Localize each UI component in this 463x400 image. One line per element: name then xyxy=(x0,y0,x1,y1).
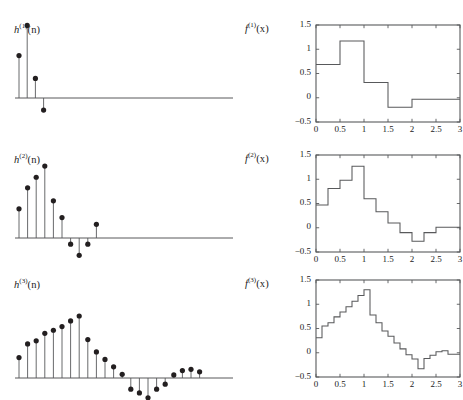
h1-label-superscript: (1) xyxy=(19,22,27,30)
f3-step-xtick-label: 3 xyxy=(448,379,463,389)
f1-step-xtick-label: 1.5 xyxy=(376,124,400,134)
f2-label-argument: (x) xyxy=(256,153,269,164)
h2-label-superscript: (2) xyxy=(19,152,27,160)
f2-step-xtick-label: 0 xyxy=(304,254,328,264)
f1-step-xtick-label: 0 xyxy=(304,124,328,134)
h1-label: h(1)(n) xyxy=(14,22,40,35)
f2-step-ytick-label: 0.5 xyxy=(270,197,311,207)
f1-step-ytick-label: 1.5 xyxy=(270,19,311,29)
f3-step-plot xyxy=(316,280,460,377)
f2-step-xtick-label: 2 xyxy=(400,254,424,264)
f3-label: f(3)(x) xyxy=(245,276,269,289)
h3-stem-stem-marker xyxy=(34,338,39,343)
h3-stem-stem-marker xyxy=(25,341,30,346)
f3-step-ytick-label: 1 xyxy=(270,298,311,308)
h2-stem-stem-marker xyxy=(85,242,90,247)
f3-step-ytick-label: 0.5 xyxy=(270,322,311,332)
h2-stem-stem-marker xyxy=(34,175,39,180)
f2-step-ytick-label: 1 xyxy=(270,173,311,183)
h2-stem-stem-marker xyxy=(94,222,99,227)
h3-stem-stem-marker xyxy=(85,337,90,342)
h3-stem-stem-marker xyxy=(128,387,133,392)
h1-stem-stem-marker xyxy=(41,107,46,112)
h3-stem-stem-marker xyxy=(137,390,142,395)
h3-label-argument: (n) xyxy=(28,279,41,290)
f1-step-plot xyxy=(316,25,460,122)
f2-label: f(2)(x) xyxy=(245,151,269,164)
h3-stem-stem-marker xyxy=(145,395,150,400)
f1-step-xtick-label: 1 xyxy=(352,124,376,134)
h1-label-argument: (n) xyxy=(28,24,41,35)
wavelet-cascade-figure xyxy=(0,0,463,400)
h3-stem-stem-marker xyxy=(180,368,185,373)
f3-step-xtick-label: 2.5 xyxy=(424,379,448,389)
h2-stem-stem-marker xyxy=(25,185,30,190)
f2-step-xtick-label: 0.5 xyxy=(328,254,352,264)
h2-stem-plot xyxy=(15,163,233,257)
h3-stem-stem-marker xyxy=(59,324,64,329)
h2-stem-stem-marker xyxy=(16,206,21,211)
f2-step-ytick-label: 1.5 xyxy=(270,149,311,159)
f2-step-xtick-label: 3 xyxy=(448,254,463,264)
h2-stem-stem-marker xyxy=(77,253,82,258)
f3-label-argument: (x) xyxy=(256,278,269,289)
f3-step-ytick-label: 0 xyxy=(270,346,311,356)
h3-stem-stem-marker xyxy=(51,328,56,333)
f1-step-xtick-label: 2.5 xyxy=(424,124,448,134)
h3-stem-plot xyxy=(15,313,233,400)
h3-stem-stem-marker xyxy=(171,372,176,377)
f1-label-argument: (x) xyxy=(256,23,269,34)
f2-step-ytick-label: 0 xyxy=(270,221,311,231)
h2-stem-stem-marker xyxy=(51,198,56,203)
h3-stem-stem-marker xyxy=(68,318,73,323)
h3-stem-stem-marker xyxy=(188,367,193,372)
h2-stem-stem-marker xyxy=(68,242,73,247)
f3-step-xtick-label: 1.5 xyxy=(376,379,400,389)
h2-label: h(2)(n) xyxy=(14,152,40,165)
f2-step-xtick-label: 2.5 xyxy=(424,254,448,264)
h3-stem-stem-marker xyxy=(77,313,82,318)
f3-step-step-curve xyxy=(316,290,460,369)
f1-label-superscript: (1) xyxy=(248,21,256,29)
h3-stem-stem-marker xyxy=(16,355,21,360)
h3-stem-stem-marker xyxy=(163,382,168,387)
f1-step-ytick-label: 0.5 xyxy=(270,67,311,77)
f1-step-xtick-label: 0.5 xyxy=(328,124,352,134)
f2-step-step-curve xyxy=(316,166,460,241)
f3-step-xtick-label: 1 xyxy=(352,379,376,389)
h3-stem-stem-marker xyxy=(120,372,125,377)
h3-label: h(3)(n) xyxy=(14,277,40,290)
h2-label-argument: (n) xyxy=(28,154,41,165)
f1-step-ytick-label: 0 xyxy=(270,91,311,101)
f1-step-ytick-label: 1 xyxy=(270,43,311,53)
h3-stem-stem-marker xyxy=(154,387,159,392)
h3-stem-stem-marker xyxy=(197,369,202,374)
h1-stem-stem-marker xyxy=(33,76,38,81)
h3-stem-stem-marker xyxy=(94,349,99,354)
h1-stem-plot xyxy=(15,23,233,113)
f1-label: f(1)(x) xyxy=(245,21,269,34)
f2-step-frame xyxy=(316,155,460,252)
h1-stem-stem-marker xyxy=(16,53,21,58)
f3-label-superscript: (3) xyxy=(248,276,256,284)
f2-label-superscript: (2) xyxy=(248,151,256,159)
f1-step-step-curve xyxy=(316,41,460,107)
f1-step-xtick-label: 2 xyxy=(400,124,424,134)
f3-step-xtick-label: 0 xyxy=(304,379,328,389)
h3-stem-stem-marker xyxy=(42,331,47,336)
f3-step-ytick-label: 1.5 xyxy=(270,274,311,284)
f3-step-frame xyxy=(316,280,460,377)
h3-label-superscript: (3) xyxy=(19,277,27,285)
h3-stem-stem-marker xyxy=(102,357,107,362)
f2-step-plot xyxy=(316,155,460,252)
h2-stem-stem-marker xyxy=(59,215,64,220)
f3-step-xtick-label: 0.5 xyxy=(328,379,352,389)
h2-stem-stem-marker xyxy=(42,163,47,168)
f3-step-xtick-label: 2 xyxy=(400,379,424,389)
f1-step-xtick-label: 3 xyxy=(448,124,463,134)
f2-step-xtick-label: 1 xyxy=(352,254,376,264)
h3-stem-stem-marker xyxy=(111,364,116,369)
f2-step-xtick-label: 1.5 xyxy=(376,254,400,264)
